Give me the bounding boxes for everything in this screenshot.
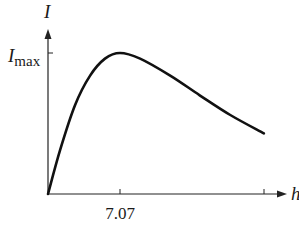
y-axis-arrow-icon — [45, 29, 52, 39]
y-tick-label-imax: Imax — [7, 45, 41, 69]
chart: I Imax 7.07 h — [0, 0, 299, 226]
x-tick-label: 7.07 — [105, 204, 135, 223]
y-tick-label-sub: max — [14, 53, 40, 69]
x-axis-arrow-icon — [277, 191, 287, 198]
series-line-I — [48, 53, 264, 194]
x-axis-label: h — [291, 183, 299, 204]
y-axis-label: I — [43, 1, 52, 22]
